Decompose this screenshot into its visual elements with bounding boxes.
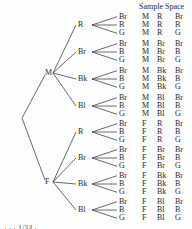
sample-outcome-gender: M <box>142 83 149 91</box>
sample-outcome-eyes: G <box>175 110 181 118</box>
sample-outcome-hair: Bl <box>157 110 165 118</box>
leaf-node-g: G <box>119 214 125 222</box>
tree-diagram: Sample Space MRBrMRBrBMRBGMRGBrBrMBrBrBM… <box>0 0 192 229</box>
level2-node-bk: Bk <box>78 75 87 83</box>
sample-outcome-gender: M <box>142 56 149 64</box>
level2-node-r: R <box>78 21 83 29</box>
sample-outcome-hair: R <box>157 29 162 37</box>
sample-outcome-hair: R <box>157 136 162 144</box>
leaf-node-g: G <box>119 136 125 144</box>
sample-outcome-eyes: G <box>175 136 181 144</box>
level2-node-bk: Bk <box>78 180 87 188</box>
sample-outcome-gender: M <box>142 110 149 118</box>
sample-outcome-gender: F <box>142 136 146 144</box>
sample-outcome-hair: Bk <box>157 188 166 196</box>
sample-outcome-eyes: G <box>175 214 181 222</box>
leaf-node-g: G <box>119 29 125 37</box>
sample-outcome-hair: Bl <box>157 214 165 222</box>
level1-node-f: F <box>45 178 49 186</box>
level2-node-bl: Bl <box>78 102 86 110</box>
sample-outcome-hair: Br <box>157 162 165 170</box>
leaf-node-g: G <box>119 188 125 196</box>
sample-outcome-eyes: G <box>175 56 181 64</box>
sample-space-title: Sample Space <box>139 2 184 11</box>
sample-outcome-hair: Bk <box>157 83 166 91</box>
level1-node-m: M <box>45 69 52 77</box>
level2-node-bl: Bl <box>78 206 86 214</box>
sample-outcome-gender: M <box>142 29 149 37</box>
sample-outcome-eyes: G <box>175 83 181 91</box>
sample-outcome-gender: F <box>142 214 146 222</box>
sample-outcome-hair: Br <box>157 56 165 64</box>
sample-outcome-eyes: G <box>175 162 181 170</box>
leaf-node-g: G <box>119 83 125 91</box>
leaf-node-g: G <box>119 162 125 170</box>
level2-node-r: R <box>78 128 83 136</box>
sample-outcome-gender: F <box>142 162 146 170</box>
leaf-node-g: G <box>119 56 125 64</box>
level2-node-br: Br <box>78 48 86 56</box>
level2-node-br: Br <box>78 154 86 162</box>
sample-outcome-eyes: G <box>175 29 181 37</box>
leaf-node-g: G <box>119 110 125 118</box>
footer-partial-text: · · · 1/24 · <box>4 224 37 229</box>
sample-outcome-eyes: G <box>175 188 181 196</box>
sample-outcome-gender: F <box>142 188 146 196</box>
